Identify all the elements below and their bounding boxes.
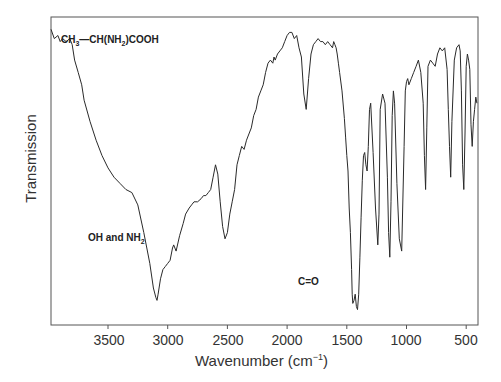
plot-frame <box>51 17 478 325</box>
spectrum-line <box>51 29 477 309</box>
x-tick-3500: 3500 <box>93 332 124 348</box>
x-tick-3000: 3000 <box>152 332 183 348</box>
x-axis-ticks <box>108 325 466 329</box>
ir-spectrum-chart <box>0 0 501 382</box>
molecule-formula-label: CH3—CH(NH2)COOH <box>61 34 159 47</box>
x-tick-1000: 1000 <box>390 332 421 348</box>
x-tick-500: 500 <box>454 332 477 348</box>
y-axis-label: Transmission <box>22 109 39 209</box>
x-axis-label: Wavenumber (cm−1) <box>195 352 328 369</box>
carbonyl-band-label: C=O <box>298 276 319 287</box>
x-tick-2500: 2500 <box>212 332 243 348</box>
x-tick-1500: 1500 <box>331 332 362 348</box>
x-tick-2000: 2000 <box>271 332 302 348</box>
oh-nh2-band-label: OH and NH2 <box>88 232 145 245</box>
